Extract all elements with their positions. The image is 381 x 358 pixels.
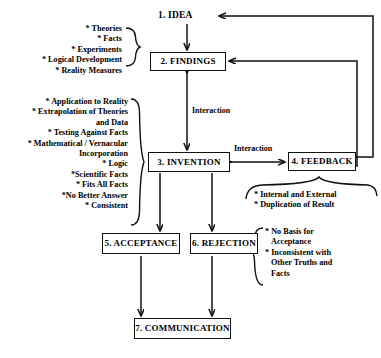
list-item: Incorporation	[2, 149, 128, 159]
list-item: * Duplication of Result	[254, 200, 380, 210]
list-feedback-criteria: * Internal and External * Duplication of…	[254, 190, 380, 211]
brace-invention-criteria	[131, 99, 144, 225]
list-item: * Logical Development	[14, 55, 122, 65]
node-rejection[interactable]: 6. REJECTION	[190, 233, 258, 254]
brace-findings-criteria	[126, 28, 140, 66]
list-item: Facts	[265, 269, 377, 279]
list-item: * Mathematical / Vernacular	[2, 139, 128, 149]
list-item: * Fits All Facts	[2, 180, 128, 190]
edge-label-interaction-vertical: Interaction	[191, 106, 231, 115]
list-findings-criteria: * Theories * Facts * Experiments * Logic…	[14, 24, 122, 76]
list-item: * Internal and External	[254, 190, 380, 200]
edge-feedback-to-idea	[219, 16, 373, 157]
node-findings[interactable]: 2. FINDINGS	[150, 52, 226, 71]
list-item: * Testing Against Facts	[2, 128, 128, 138]
node-feedback[interactable]: 4. FEEDBACK	[288, 152, 356, 171]
node-idea[interactable]: 1. IDEA	[158, 10, 193, 20]
edge-label-interaction-horizontal: Interaction	[233, 144, 273, 153]
list-item: * Logic	[2, 159, 128, 169]
list-item: * Facts	[14, 34, 122, 44]
list-item: * Inconsistent with	[265, 248, 377, 258]
list-item: *Scientific Facts	[2, 170, 128, 180]
node-acceptance[interactable]: 5. ACCEPTANCE	[102, 233, 180, 254]
list-item: Other Truths and	[265, 258, 377, 268]
list-item: * Consistent	[2, 201, 128, 211]
list-rejection-criteria: * No Basis for Acceptance * Inconsistent…	[265, 227, 377, 279]
list-item: * Theories	[14, 24, 122, 34]
list-item: * No Basis for	[265, 227, 377, 237]
list-item: * Extrapolation of Theories	[2, 107, 128, 117]
list-item: * Experiments	[14, 45, 122, 55]
node-communication[interactable]: 7. COMMUNICATION	[134, 318, 231, 339]
list-invention-criteria: * Application to Reality * Extrapolation…	[2, 97, 128, 211]
list-item: and Data	[2, 118, 128, 128]
list-item: * Application to Reality	[2, 97, 128, 107]
node-invention[interactable]: 3. INVENTION	[148, 152, 230, 172]
list-item: *No Better Answer	[2, 191, 128, 201]
list-item: * Reality Measures	[14, 66, 122, 76]
list-item: Acceptance	[265, 237, 377, 247]
diagram-canvas: 1. IDEA 2. FINDINGS 3. INVENTION 4. FEED…	[0, 0, 381, 358]
